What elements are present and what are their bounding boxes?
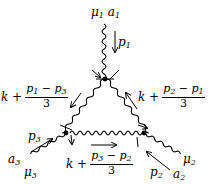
- label-bottom-internal-momentum: k + p3 − p2 3: [66, 150, 133, 177]
- vertex-dots: [64, 77, 147, 136]
- label-a2: a2: [173, 168, 185, 182]
- arrow-right-internal-icon: [126, 93, 137, 109]
- internal-gluon-left: [62, 79, 104, 133]
- label-p1: p1: [118, 36, 131, 50]
- label-a3: a3: [8, 153, 20, 167]
- external-gluon-2: [146, 134, 180, 154]
- label-mu2: μ2: [183, 153, 196, 167]
- arrow-left-internal-icon: [71, 93, 81, 107]
- label-mu3: μ3: [24, 166, 37, 180]
- label-right-internal-momentum: k + p2 − p1 3: [138, 83, 205, 110]
- vertex-ticks: [60, 70, 147, 147]
- vertex-right: [142, 131, 147, 136]
- internal-gluon-bottom: [70, 131, 142, 135]
- vertex-left: [64, 131, 69, 136]
- label-p2: p2: [150, 166, 163, 180]
- label-p3: p3: [28, 130, 41, 144]
- label-mu1-a1: μ1 a1: [91, 6, 120, 20]
- label-left-internal-momentum: k + p1 − p3 3: [1, 83, 68, 110]
- external-gluon-1: [102, 24, 106, 79]
